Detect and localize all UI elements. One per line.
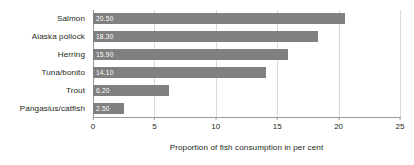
bar: 18.30 (93, 31, 318, 42)
category-label: Herring (0, 46, 89, 64)
x-tick: 25 (396, 117, 405, 131)
x-tick: 0 (91, 117, 95, 131)
x-tick-label: 15 (273, 122, 282, 131)
x-tick: 15 (273, 117, 282, 131)
x-tick-mark (400, 117, 401, 120)
bar-value-label: 6.20 (93, 87, 110, 94)
x-tick-mark (215, 117, 216, 120)
x-tick-label: 0 (91, 122, 95, 131)
x-tick-label: 5 (152, 122, 156, 131)
x-tick-mark (154, 117, 155, 120)
category-label: Salmon (0, 10, 89, 28)
bar-row: 2.50 (93, 99, 400, 117)
bar-row: 20.50 (93, 10, 400, 28)
x-axis-ticks: 0510152025 (93, 117, 400, 137)
x-tick-label: 10 (211, 122, 220, 131)
bar-value-label: 20.50 (93, 15, 114, 22)
bar-row: 18.30 (93, 28, 400, 46)
bar-value-label: 2.50 (93, 105, 110, 112)
bar-chart: Salmon Alaska pollock Herring Tuna/bonit… (0, 0, 414, 165)
bar-row: 6.20 (93, 81, 400, 99)
category-label: Trout (0, 81, 89, 99)
category-label: Tuna/bonito (0, 63, 89, 81)
category-axis: Salmon Alaska pollock Herring Tuna/bonit… (0, 10, 89, 117)
x-tick-label: 25 (396, 122, 405, 131)
x-tick-label: 20 (334, 122, 343, 131)
x-tick-mark (92, 117, 93, 120)
x-tick-mark (277, 117, 278, 120)
gridline (400, 10, 401, 117)
bar: 20.50 (93, 13, 345, 24)
x-tick: 5 (152, 117, 156, 131)
x-tick-mark (338, 117, 339, 120)
category-label: Pangasius/catfish (0, 99, 89, 117)
bar-value-label: 15.90 (93, 51, 114, 58)
bar: 6.20 (93, 85, 169, 96)
bar-value-label: 18.30 (93, 33, 114, 40)
bar-row: 14.10 (93, 63, 400, 81)
bar: 2.50 (93, 103, 124, 114)
plot-area: 20.50 18.30 15.90 14.10 6.20 (93, 10, 400, 117)
x-tick: 10 (211, 117, 220, 131)
bar: 15.90 (93, 49, 288, 60)
x-tick: 20 (334, 117, 343, 131)
bar-row: 15.90 (93, 46, 400, 64)
bar: 14.10 (93, 67, 266, 78)
category-label: Alaska pollock (0, 28, 89, 46)
bar-series: 20.50 18.30 15.90 14.10 6.20 (93, 10, 400, 117)
bar-value-label: 14.10 (93, 69, 114, 76)
x-axis-title: Proportion of fish consumption in per ce… (93, 143, 400, 152)
